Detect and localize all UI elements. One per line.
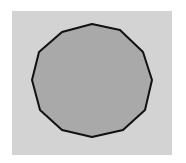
dodecagon-shape bbox=[32, 24, 152, 137]
shape-canvas bbox=[0, 0, 186, 163]
